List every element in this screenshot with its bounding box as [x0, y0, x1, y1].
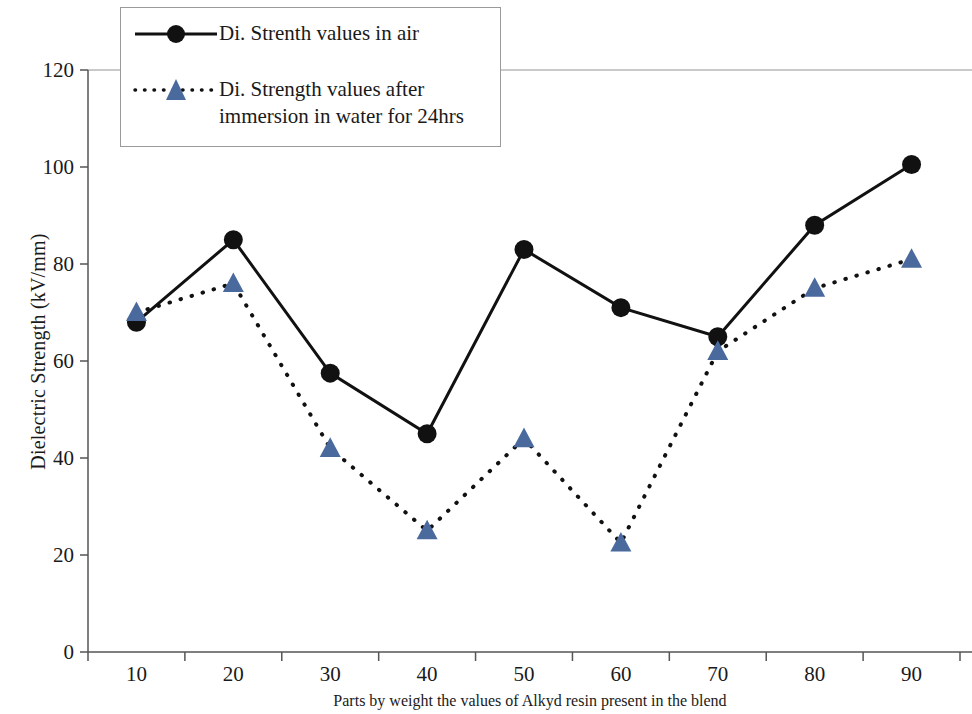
data-point-triangle: [610, 532, 631, 552]
x-tick-label: 30: [300, 662, 360, 687]
x-tick-label: 90: [882, 662, 942, 687]
legend-key-triangle-dotted: [133, 76, 219, 104]
x-tick-label: 60: [591, 662, 651, 687]
data-point-circle: [805, 216, 824, 235]
legend-label-air: Di. Strenth values in air: [219, 20, 419, 47]
legend-item-air: Di. Strenth values in air: [121, 20, 419, 48]
axis-tick-marks: [80, 70, 960, 661]
data-point-triangle: [320, 437, 341, 457]
data-point-triangle: [901, 248, 922, 268]
series-markers: [126, 155, 922, 551]
data-point-circle: [611, 298, 630, 317]
data-point-circle: [321, 364, 340, 383]
legend-key-circle-solid: [133, 20, 219, 48]
axis-lines: [88, 70, 972, 652]
x-tick-label: 10: [106, 662, 166, 687]
data-point-triangle: [126, 302, 147, 322]
x-tick-label: 50: [494, 662, 554, 687]
series-line-0: [136, 165, 911, 434]
data-point-circle: [515, 240, 534, 259]
series-line-1: [136, 259, 911, 543]
x-axis-title: Parts by weight the values of Alkyd resi…: [88, 692, 972, 710]
data-point-circle: [418, 424, 437, 443]
chart-figure: Dielectric Strength (kV/mm) 020406080100…: [0, 0, 972, 714]
x-tick-label: 40: [397, 662, 457, 687]
data-point-triangle: [707, 340, 728, 360]
legend: Di. Strenth values in air Di. Strength v…: [120, 7, 501, 147]
data-point-circle: [902, 155, 921, 174]
series-lines: [136, 165, 911, 543]
data-point-triangle: [223, 272, 244, 292]
legend-label-water: Di. Strength values after immersion in w…: [219, 76, 464, 130]
data-point-triangle: [417, 520, 438, 540]
x-tick-label: 70: [688, 662, 748, 687]
data-point-circle: [224, 230, 243, 249]
x-tick-label: 20: [203, 662, 263, 687]
legend-item-water: Di. Strength values after immersion in w…: [121, 76, 464, 130]
data-point-triangle: [514, 428, 535, 448]
x-tick-label: 80: [785, 662, 845, 687]
